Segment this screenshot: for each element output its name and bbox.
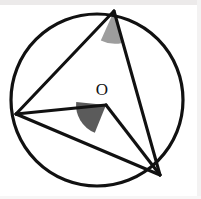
geometry-figure: O — [0, 0, 201, 199]
center-point-label-o: O — [96, 80, 108, 99]
circle-diagram: O — [0, 0, 201, 199]
